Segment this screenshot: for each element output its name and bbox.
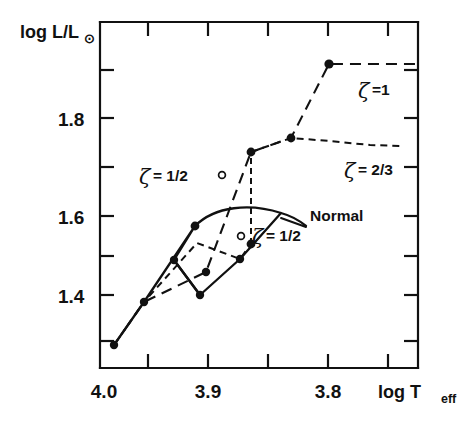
data-markers-filled — [110, 59, 334, 349]
normal-label-text: Normal — [310, 207, 363, 224]
x-tick-label-3: 3.8 — [315, 381, 341, 402]
y-axis-title: log L/L ⊙ — [20, 22, 95, 46]
y-tick-label-1: 1.8 — [58, 109, 84, 130]
x-axis-ticks-bottom — [148, 354, 388, 368]
annotation-zeta-two-thirds: ζ = 2/3 — [344, 159, 393, 183]
y-tick-labels: 1.8 1.6 1.4 — [58, 109, 85, 307]
annotation-zeta-half-upper: ζ = 1/2 — [139, 165, 188, 189]
x-tick-labels: 4.0 3.9 3.8 — [91, 381, 341, 402]
y-tick-label-3: 1.4 — [58, 286, 85, 307]
annotation-zeta-one: ζ =1 — [358, 79, 390, 103]
zeta-glyph-one: ζ — [358, 79, 371, 103]
y-axis-title-subscript: ⊙ — [84, 31, 95, 46]
axis-frame — [100, 22, 418, 368]
y-axis-ticks-right — [404, 70, 418, 341]
x-axis-title-subscript: eff — [441, 392, 457, 406]
zeta-glyph-upper: ζ — [139, 165, 152, 189]
y-axis-title-text: log L/L — [20, 22, 79, 42]
zeta-glyph-lower: ζ — [252, 225, 265, 249]
series-zeta-1 — [114, 64, 418, 345]
y-axis-ticks-left — [100, 70, 114, 341]
x-axis-title-text: log T — [378, 382, 421, 402]
x-axis-ticks-top — [148, 22, 388, 36]
zeta-one-text: =1 — [372, 81, 390, 98]
x-tick-label-2: 3.9 — [195, 381, 221, 402]
y-tick-label-2: 1.6 — [58, 207, 84, 228]
zeta-half-upper-text: = 1/2 — [153, 167, 188, 184]
x-axis-title: log T eff — [378, 382, 457, 406]
chart-svg: log L/L ⊙ 1.8 1.6 1.4 4.0 3.9 3.8 log T … — [0, 0, 465, 426]
annotation-zeta-half-lower: ζ = 1/2 — [252, 225, 301, 249]
x-tick-label-1: 4.0 — [91, 381, 117, 402]
zeta-twothirds-text: = 2/3 — [358, 161, 393, 178]
zeta-half-lower-text: = 1/2 — [266, 227, 301, 244]
zeta-glyph-twothirds: ζ — [344, 159, 357, 183]
figure-hr-diagram: log L/L ⊙ 1.8 1.6 1.4 4.0 3.9 3.8 log T … — [0, 0, 465, 426]
annotation-normal: Normal — [310, 207, 363, 224]
